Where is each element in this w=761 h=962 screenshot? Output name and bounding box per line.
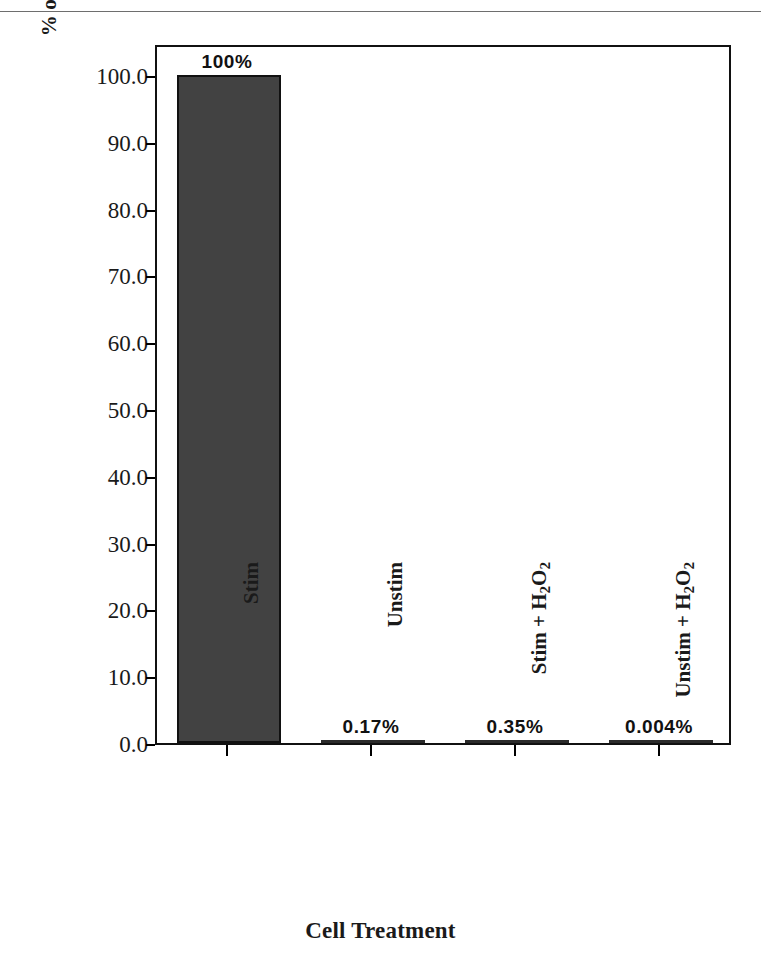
x-axis-category-subscript-2: 2 <box>681 562 697 570</box>
bar-chart-figure: % of NF-AT Activity in Stimulated pNF-AT… <box>0 0 761 962</box>
y-axis-tick-label: 60.0 <box>74 332 148 355</box>
y-axis-tick-label: 70.0 <box>74 265 148 288</box>
y-axis-tick-label: 10.0 <box>74 666 148 689</box>
x-axis-category-subscript: 2 <box>681 586 697 594</box>
y-axis-tick-mark <box>146 76 155 78</box>
y-axis-tick-mark <box>146 477 155 479</box>
y-axis-tick-label: 90.0 <box>74 132 148 155</box>
x-axis-tick-mark <box>226 745 228 756</box>
y-axis-tick-label: 80.0 <box>74 199 148 222</box>
bar <box>609 740 713 743</box>
y-axis-tick-mark <box>146 610 155 612</box>
x-axis-category-label: Unstim + H2O2 <box>670 562 696 762</box>
x-axis-title: Cell Treatment <box>0 918 761 944</box>
x-axis-category-text: Stim + H <box>527 593 551 674</box>
y-axis-tick-mark <box>146 544 155 546</box>
x-axis-category-text: Unstim + H <box>671 593 695 697</box>
y-axis-tick-label: 30.0 <box>74 533 148 556</box>
y-axis-title: % of NF-AT Activity in Stimulated pNF-AT… <box>34 0 64 122</box>
x-axis-category-text: Stim <box>239 562 263 604</box>
y-axis-tick-label: 20.0 <box>74 599 148 622</box>
x-axis-tick-mark <box>658 745 660 756</box>
y-axis-tick-mark <box>146 410 155 412</box>
y-axis-tick-mark <box>146 677 155 679</box>
x-axis-category-text: Unstim <box>383 562 407 627</box>
x-axis-tick-mark <box>514 745 516 756</box>
y-axis-tick-mark <box>146 276 155 278</box>
x-axis-category-subscript-2: 2 <box>537 562 553 570</box>
y-axis-tick-label: 40.0 <box>74 466 148 489</box>
bar <box>177 75 281 743</box>
x-axis-category-text-mid: O <box>527 570 551 586</box>
bar-value-label: 0.004% <box>559 716 759 738</box>
x-axis-category-label: Stim <box>238 562 264 762</box>
y-axis-tick-labels: 0.010.020.030.040.050.060.070.080.090.01… <box>74 0 148 962</box>
x-axis-category-label: Unstim <box>382 562 408 762</box>
y-axis-tick-label: 50.0 <box>74 399 148 422</box>
x-axis-category-subscript: 2 <box>537 586 553 594</box>
y-axis-tick-mark <box>146 343 155 345</box>
x-axis-category-text-mid: O <box>671 570 695 586</box>
y-axis-tick-mark <box>146 744 155 746</box>
x-axis-tick-mark <box>370 745 372 756</box>
y-axis-tick-label: 0.0 <box>74 733 148 756</box>
y-axis-title-text-before: % of NF-AT Activity in Stimulated pNF-AT <box>37 0 62 36</box>
bar <box>465 740 569 743</box>
y-axis-tick-mark <box>146 143 155 145</box>
bar-value-label: 100% <box>127 51 327 73</box>
y-axis-tick-mark <box>146 210 155 212</box>
bar <box>321 740 425 743</box>
x-axis-category-label: Stim + H2O2 <box>526 562 552 762</box>
